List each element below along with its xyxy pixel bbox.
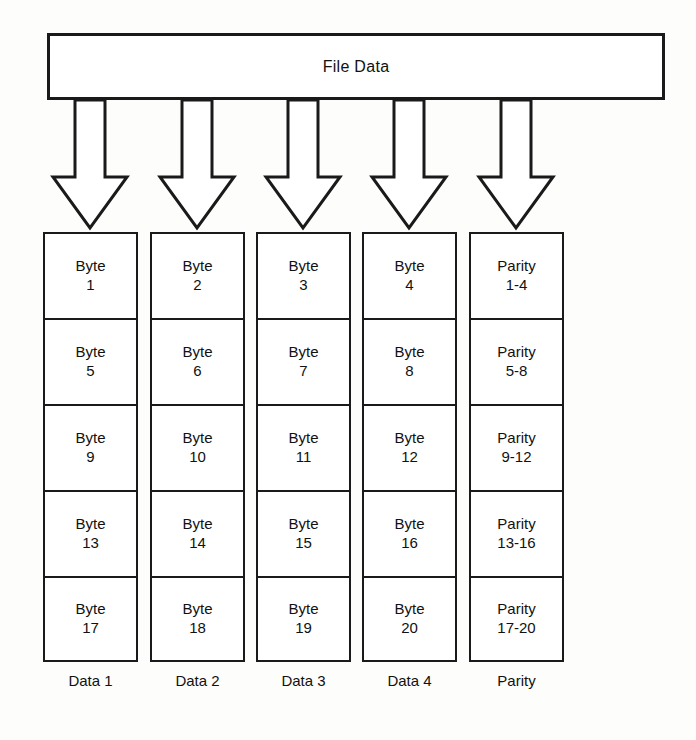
- cell-line-secondary: 4: [405, 276, 413, 295]
- column-label-data-4: Data 4: [362, 672, 457, 689]
- cell-line-secondary: 7: [299, 362, 307, 381]
- cell-line-secondary: 6: [193, 362, 201, 381]
- cell-line-secondary: 11: [296, 448, 312, 467]
- disk-column-data-1: Byte 1 Byte 5 Byte 9 Byte 13 Byte 17: [43, 232, 138, 662]
- disk-cell: Parity 17-20: [469, 576, 564, 662]
- cell-line-secondary: 9: [86, 448, 94, 467]
- cell-line-primary: Byte: [288, 600, 318, 619]
- disk-cell: Parity 9-12: [469, 404, 564, 490]
- cell-line-secondary: 13-16: [497, 534, 535, 553]
- disk-cell: Byte 14: [150, 490, 245, 576]
- down-arrow-icon: [479, 100, 553, 228]
- cell-line-primary: Byte: [75, 257, 105, 276]
- disk-cell: Byte 12: [362, 404, 457, 490]
- disk-cell: Byte 15: [256, 490, 351, 576]
- disk-column-data-2: Byte 2 Byte 6 Byte 10 Byte 14 Byte 18: [150, 232, 245, 662]
- disk-cell: Byte 20: [362, 576, 457, 662]
- cell-line-secondary: 3: [299, 276, 307, 295]
- disk-cell: Byte 2: [150, 232, 245, 318]
- cell-line-primary: Byte: [182, 343, 212, 362]
- column-label-data-2: Data 2: [150, 672, 245, 689]
- cell-line-primary: Byte: [288, 257, 318, 276]
- cell-line-primary: Byte: [75, 515, 105, 534]
- down-arrow-icon: [53, 100, 127, 228]
- disk-cell: Parity 1-4: [469, 232, 564, 318]
- disk-cell: Byte 5: [43, 318, 138, 404]
- cell-line-primary: Parity: [497, 343, 535, 362]
- cell-line-primary: Byte: [394, 343, 424, 362]
- cell-line-primary: Byte: [182, 600, 212, 619]
- cell-line-primary: Byte: [394, 429, 424, 448]
- disk-cell: Byte 13: [43, 490, 138, 576]
- cell-line-secondary: 17-20: [497, 619, 535, 638]
- cell-line-secondary: 17: [82, 619, 99, 638]
- cell-line-secondary: 12: [401, 448, 418, 467]
- disk-cell: Byte 7: [256, 318, 351, 404]
- raid-striping-diagram: File Data Byte 1 Byte 5 Byte 9: [0, 0, 696, 740]
- disk-column-parity: Parity 1-4 Parity 5-8 Parity 9-12 Parity…: [469, 232, 564, 662]
- disk-cell: Byte 16: [362, 490, 457, 576]
- cell-line-secondary: 13: [82, 534, 99, 553]
- disk-cell: Byte 19: [256, 576, 351, 662]
- cell-line-secondary: 5-8: [506, 362, 528, 381]
- column-label-data-1: Data 1: [43, 672, 138, 689]
- disk-cell: Byte 9: [43, 404, 138, 490]
- cell-line-secondary: 16: [401, 534, 418, 553]
- down-arrow-icon: [372, 100, 446, 228]
- cell-line-secondary: 8: [405, 362, 413, 381]
- cell-line-secondary: 5: [86, 362, 94, 381]
- cell-line-primary: Parity: [497, 515, 535, 534]
- disk-cell: Byte 8: [362, 318, 457, 404]
- cell-line-primary: Byte: [75, 600, 105, 619]
- column-label-parity: Parity: [469, 672, 564, 689]
- cell-line-primary: Byte: [288, 429, 318, 448]
- cell-line-primary: Parity: [497, 600, 535, 619]
- disk-cell: Byte 18: [150, 576, 245, 662]
- disk-cell: Byte 10: [150, 404, 245, 490]
- file-data-box: File Data: [47, 33, 665, 100]
- cell-line-secondary: 10: [189, 448, 206, 467]
- cell-line-primary: Byte: [394, 257, 424, 276]
- cell-line-primary: Byte: [394, 515, 424, 534]
- disk-cell: Byte 6: [150, 318, 245, 404]
- disk-column-data-3: Byte 3 Byte 7 Byte 11 Byte 15 Byte 19: [256, 232, 351, 662]
- disk-cell: Byte 11: [256, 404, 351, 490]
- disk-cell: Byte 1: [43, 232, 138, 318]
- disk-cell: Byte 4: [362, 232, 457, 318]
- disk-cell: Byte 17: [43, 576, 138, 662]
- cell-line-primary: Byte: [75, 429, 105, 448]
- cell-line-secondary: 19: [295, 619, 312, 638]
- disk-cell: Parity 5-8: [469, 318, 564, 404]
- down-arrow-icon: [160, 100, 234, 228]
- cell-line-primary: Parity: [497, 429, 535, 448]
- cell-line-secondary: 20: [401, 619, 418, 638]
- cell-line-secondary: 1-4: [506, 276, 528, 295]
- column-label-data-3: Data 3: [256, 672, 351, 689]
- cell-line-secondary: 18: [189, 619, 206, 638]
- cell-line-primary: Parity: [497, 257, 535, 276]
- cell-line-secondary: 1: [86, 276, 94, 295]
- cell-line-primary: Byte: [182, 429, 212, 448]
- cell-line-primary: Byte: [288, 343, 318, 362]
- cell-line-primary: Byte: [288, 515, 318, 534]
- file-data-label: File Data: [323, 58, 390, 76]
- cell-line-secondary: 14: [189, 534, 206, 553]
- disk-column-data-4: Byte 4 Byte 8 Byte 12 Byte 16 Byte 20: [362, 232, 457, 662]
- cell-line-secondary: 9-12: [501, 448, 531, 467]
- disk-cell: Parity 13-16: [469, 490, 564, 576]
- down-arrow-icon: [266, 100, 340, 228]
- cell-line-secondary: 2: [193, 276, 201, 295]
- cell-line-primary: Byte: [394, 600, 424, 619]
- cell-line-primary: Byte: [75, 343, 105, 362]
- disk-cell: Byte 3: [256, 232, 351, 318]
- cell-line-primary: Byte: [182, 257, 212, 276]
- cell-line-primary: Byte: [182, 515, 212, 534]
- cell-line-secondary: 15: [295, 534, 312, 553]
